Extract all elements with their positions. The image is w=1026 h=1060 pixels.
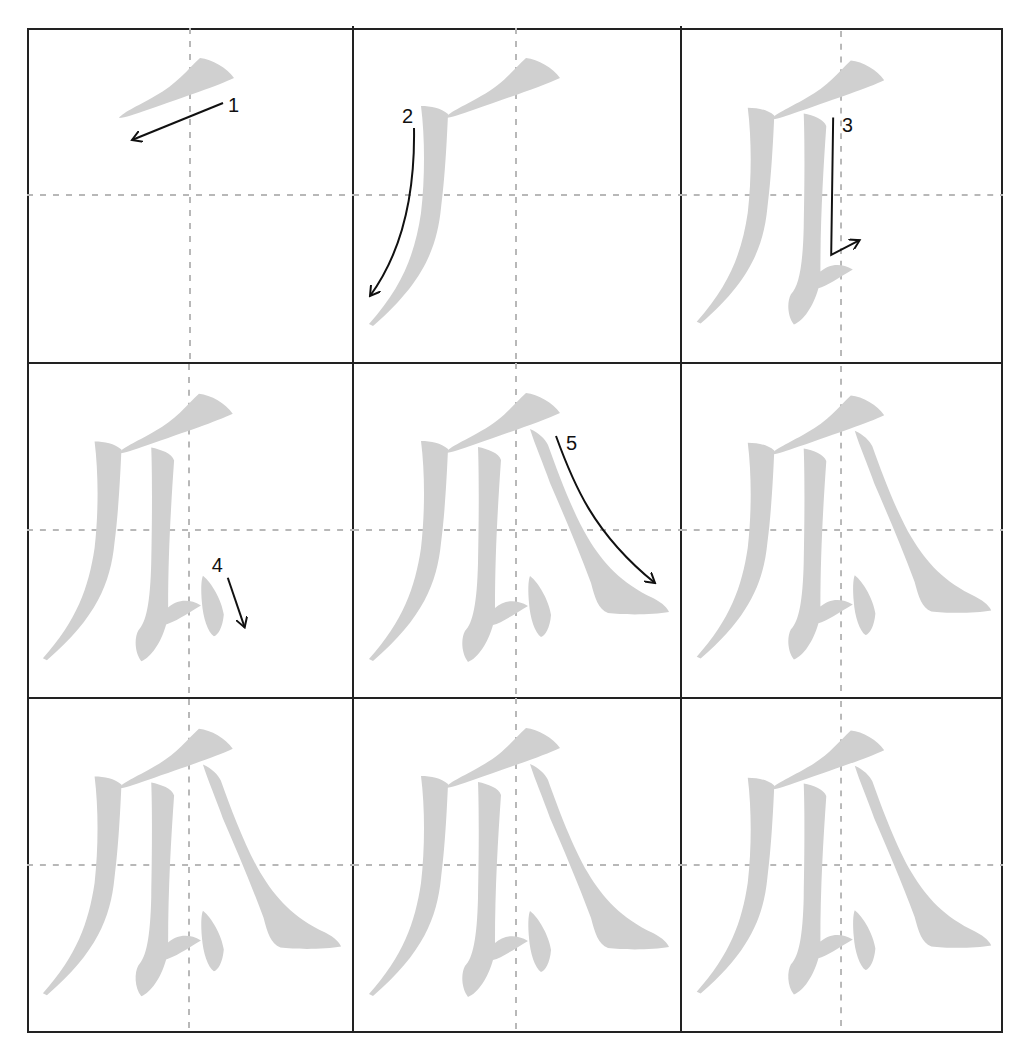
stroke-number: 1	[228, 94, 239, 116]
character-trace	[353, 698, 681, 1033]
stroke-arrow-icon	[831, 117, 859, 254]
character-stroke-1: 1	[27, 28, 353, 363]
practice-cell-9	[681, 698, 1003, 1033]
character-stroke-4: 4	[27, 363, 353, 698]
stroke-cell-4: 4	[27, 363, 353, 698]
practice-cell-7	[27, 698, 353, 1033]
stroke-cell-1: 1	[27, 28, 353, 363]
character-trace	[681, 698, 1003, 1033]
stroke-arrow-icon	[228, 578, 245, 628]
practice-cell-8	[353, 698, 681, 1033]
character-stroke-3: 3	[681, 28, 1003, 363]
stroke-cell-5: 5	[353, 363, 681, 698]
character-complete	[681, 363, 1003, 698]
character-trace	[27, 698, 353, 1033]
stroke-number: 4	[212, 554, 223, 576]
character-stroke-5: 5	[353, 363, 681, 698]
stroke-cell-6	[681, 363, 1003, 698]
stroke-number: 5	[566, 432, 577, 454]
stroke-number: 3	[842, 114, 853, 136]
stroke-cell-2: 2	[353, 28, 681, 363]
stroke-cell-3: 3	[681, 28, 1003, 363]
character-stroke-2: 2	[353, 28, 681, 363]
stroke-number: 2	[402, 105, 413, 127]
